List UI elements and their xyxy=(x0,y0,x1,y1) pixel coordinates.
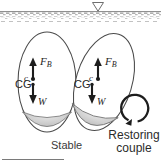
upright-weight-label: W xyxy=(38,97,46,107)
tilted-weight-label: W xyxy=(97,97,105,107)
tilted-buoyancy-force-label: FB xyxy=(105,56,117,69)
upright-center-of-buoyancy-dot xyxy=(31,77,35,81)
restoring-couple-caption-line2: couple xyxy=(108,142,160,155)
water-level-triangle-icon xyxy=(93,3,104,12)
upright-center-of-gravity-dot xyxy=(31,83,34,86)
figure-caption: Stable xyxy=(51,140,82,151)
restoring-couple-arrow xyxy=(121,95,148,126)
water-surface-group xyxy=(0,3,161,23)
water-hatch-band-upper xyxy=(0,12,161,18)
upright-center-of-gravity-label: CG xyxy=(15,79,32,90)
buoyancy-stability-figure: FB c CG W FB c CG W Restoring couple Sta… xyxy=(0,0,161,165)
tilted-center-of-buoyancy-dot xyxy=(96,77,100,81)
tilted-center-of-gravity-label: CG xyxy=(74,79,91,90)
restoring-couple-caption: Restoring couple xyxy=(108,129,160,154)
upright-buoyancy-force-label: FB xyxy=(40,56,52,69)
tilted-center-of-gravity-dot xyxy=(90,83,93,86)
restoring-couple-caption-line1: Restoring xyxy=(108,129,160,142)
water-hatch-band-lower xyxy=(0,17,161,22)
